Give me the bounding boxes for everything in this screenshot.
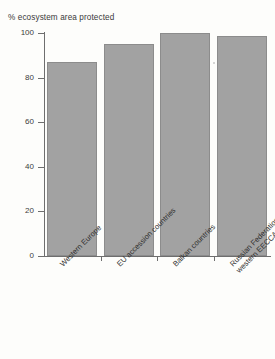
scan-artifact-speck (213, 62, 215, 64)
bar-chart: % ecosystem area protected 020406080100 … (0, 0, 275, 359)
bar (47, 62, 97, 256)
y-axis-tick (38, 256, 44, 257)
x-axis-tick (101, 257, 102, 261)
y-axis-tick-label: 20 (12, 207, 34, 215)
y-axis-tick-label: 40 (12, 163, 34, 171)
x-axis-tick (157, 257, 158, 261)
y-axis-tick-label: 80 (12, 74, 34, 82)
y-axis-tick-label: 0 (12, 252, 34, 260)
bar (217, 36, 267, 256)
y-axis-tick-label: 100 (12, 29, 34, 37)
y-axis-tick-label: 60 (12, 118, 34, 126)
chart-title: % ecosystem area protected (8, 13, 114, 22)
x-axis-tick (214, 257, 215, 261)
bar (104, 44, 154, 256)
